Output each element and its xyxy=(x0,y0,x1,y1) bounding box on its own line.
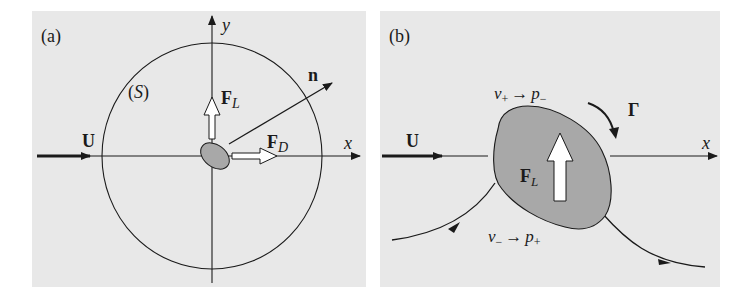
outgoing-streamline xyxy=(602,213,705,267)
normal-vector-arrow xyxy=(229,83,332,144)
normal-label: n xyxy=(308,65,318,85)
y-axis-label: y xyxy=(220,15,230,35)
upper-velocity-pressure-relation: v+→p− xyxy=(494,84,547,106)
panel-b: (b) U x Γ FL v+→p− v−→p+ xyxy=(380,11,720,287)
drag-label: FD xyxy=(267,132,288,155)
x-axis-label: x xyxy=(701,133,710,153)
x-axis-label: x xyxy=(343,133,352,153)
panel-a-label: (a) xyxy=(41,26,61,47)
panel-b-label: (b) xyxy=(389,26,410,47)
circulation-arrowhead xyxy=(609,127,619,139)
circulation-label: Γ xyxy=(628,100,639,120)
incoming-streamline xyxy=(392,183,495,240)
freestream-label: U xyxy=(406,131,419,151)
lift-force-arrow xyxy=(204,97,220,139)
panel-b-diagram: (b) U x Γ FL v+→p− v−→p+ xyxy=(380,11,720,287)
body-shape xyxy=(196,137,235,174)
body-shape xyxy=(494,106,612,229)
lower-velocity-pressure-relation: v−→p+ xyxy=(488,227,541,249)
lift-label: FL xyxy=(221,88,240,111)
panel-a: (a) y x U n (S) FL FD xyxy=(32,11,366,287)
freestream-label: U xyxy=(82,131,95,151)
panel-a-diagram: (a) y x U n (S) FL FD xyxy=(32,11,366,287)
circulation-arrow xyxy=(588,103,614,133)
surface-label: (S) xyxy=(128,82,149,103)
